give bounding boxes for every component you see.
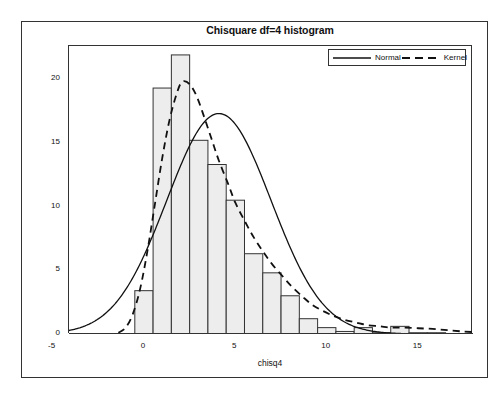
y-tick-label: 5 bbox=[34, 264, 60, 273]
y-tick-label: 15 bbox=[34, 137, 60, 146]
x-tick-label: 10 bbox=[311, 341, 341, 350]
y-tick-label: 10 bbox=[34, 201, 60, 210]
legend-solid-line-icon bbox=[332, 54, 372, 62]
y-tick-label: 20 bbox=[34, 73, 60, 82]
legend-dashed-line-icon bbox=[401, 54, 441, 62]
x-tick-label: 0 bbox=[128, 341, 158, 350]
x-tick-label: -5 bbox=[37, 341, 67, 350]
histogram-bar bbox=[208, 165, 226, 334]
histogram-bar bbox=[171, 55, 189, 334]
histogram-bar bbox=[244, 254, 262, 334]
plot-area bbox=[68, 45, 472, 333]
x-tick-label: 15 bbox=[402, 341, 432, 350]
legend-entry-kernel: Kernel bbox=[401, 53, 467, 62]
y-tick-label: 0 bbox=[34, 328, 60, 337]
histogram-bar bbox=[263, 273, 281, 334]
x-tick-label: 5 bbox=[219, 341, 249, 350]
chart-legend: Normal Kernel bbox=[328, 49, 466, 66]
histogram-bar bbox=[281, 296, 299, 334]
x-axis-title: chisq4 bbox=[68, 358, 472, 368]
histogram-plot bbox=[69, 46, 473, 334]
page-title: Chisquare df=4 histogram bbox=[68, 24, 472, 36]
histogram-bar bbox=[190, 140, 208, 334]
legend-label-normal: Normal bbox=[375, 53, 401, 62]
histogram-bar bbox=[299, 319, 317, 334]
histogram-bar bbox=[226, 200, 244, 334]
figure-canvas: Chisquare df=4 histogram Percent chisq4 … bbox=[0, 0, 503, 398]
legend-label-kernel: Kernel bbox=[444, 53, 467, 62]
histogram-bars bbox=[135, 55, 446, 334]
legend-entry-normal: Normal bbox=[332, 53, 401, 62]
